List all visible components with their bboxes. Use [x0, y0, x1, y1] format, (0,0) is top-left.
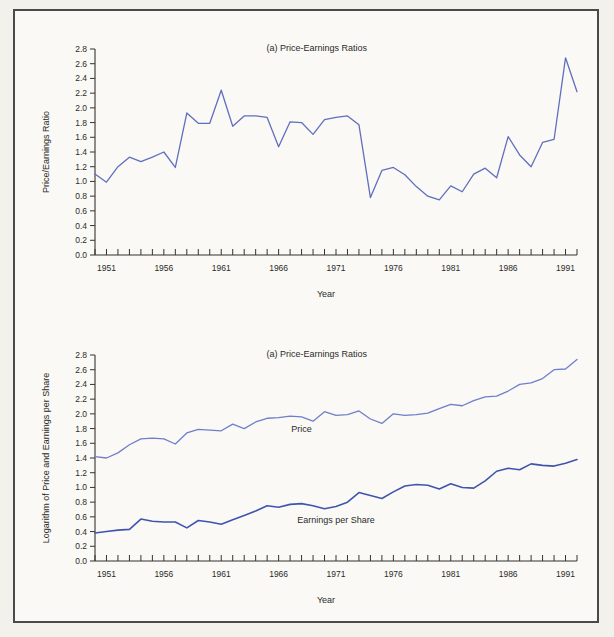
y-axis-tick-label: 1.6: [75, 438, 87, 448]
series-inline-label: Price: [291, 424, 312, 434]
y-axis-tick-label: 0.4: [75, 527, 87, 537]
y-axis-tick-label: 1.0: [75, 176, 87, 186]
x-axis-tick-label: 1986: [499, 569, 518, 579]
series-line: [95, 58, 577, 200]
y-axis-tick-label: 0.8: [75, 191, 87, 201]
y-axis-tick-label: 2.2: [75, 394, 87, 404]
x-axis-tick-label: 1951: [97, 263, 116, 273]
y-axis-tick-label: 0.0: [75, 250, 87, 260]
chart-b-canvas: 0.00.20.40.60.81.01.21.41.61.82.02.22.42…: [31, 329, 599, 619]
y-axis-tick-label: 1.8: [75, 424, 87, 434]
x-axis-tick-label: 1986: [499, 263, 518, 273]
y-axis-tick-label: 2.6: [75, 365, 87, 375]
x-axis-tick-label: 1976: [384, 263, 403, 273]
y-axis-tick-label: 1.6: [75, 132, 87, 142]
y-axis-tick-label: 1.4: [75, 453, 87, 463]
series-line: [95, 359, 577, 458]
y-axis-tick-label: 2.4: [75, 379, 87, 389]
page-border-frame: 0.00.20.40.60.81.01.21.41.61.82.02.22.42…: [13, 9, 599, 623]
chart-panel-log-price-and-earnings: 0.00.20.40.60.81.01.21.41.61.82.02.22.42…: [31, 329, 599, 619]
x-axis-tick-label: 1971: [327, 263, 346, 273]
chart-title: (a) Price-Earnings Ratios: [266, 43, 367, 53]
y-axis-tick-label: 2.0: [75, 103, 87, 113]
y-axis-tick-label: 2.0: [75, 409, 87, 419]
x-axis-tick-label: 1976: [384, 569, 403, 579]
y-axis-tick-label: 0.2: [75, 235, 87, 245]
x-axis-tick-label: 1981: [441, 263, 460, 273]
y-axis-tick-label: 1.4: [75, 147, 87, 157]
y-axis-tick-label: 2.6: [75, 59, 87, 69]
y-axis-tick-label: 0.4: [75, 221, 87, 231]
y-axis-tick-label: 1.2: [75, 468, 87, 478]
y-axis-tick-label: 1.2: [75, 162, 87, 172]
series-inline-label: Earnings per Share: [297, 515, 375, 525]
x-axis-tick-label: 1966: [269, 263, 288, 273]
y-axis-tick-label: 0.0: [75, 556, 87, 566]
x-axis-title: Year: [317, 289, 335, 299]
x-axis-tick-label: 1956: [154, 569, 173, 579]
y-axis-tick-label: 2.8: [75, 44, 87, 54]
x-axis-title: Year: [317, 595, 335, 605]
x-axis-tick-label: 1971: [327, 569, 346, 579]
page-root: 0.00.20.40.60.81.01.21.41.61.82.02.22.42…: [0, 0, 614, 637]
x-axis-tick-label: 1951: [97, 569, 116, 579]
y-axis-tick-label: 1.8: [75, 118, 87, 128]
y-axis-tick-label: 2.8: [75, 350, 87, 360]
y-axis-tick-label: 0.8: [75, 497, 87, 507]
x-axis-tick-label: 1961: [212, 569, 231, 579]
y-axis-tick-label: 0.6: [75, 206, 87, 216]
x-axis-tick-label: 1956: [154, 263, 173, 273]
x-axis-tick-label: 1991: [556, 569, 575, 579]
y-axis-title: Logarithm of Price and Earnings per Shar…: [41, 373, 51, 544]
x-axis-tick-label: 1961: [212, 263, 231, 273]
chart-title: (a) Price-Earnings Ratios: [266, 349, 367, 359]
y-axis-title: Price/Earnings Ratio: [41, 111, 51, 193]
x-axis-tick-label: 1981: [441, 569, 460, 579]
x-axis-tick-label: 1966: [269, 569, 288, 579]
y-axis-tick-label: 2.4: [75, 73, 87, 83]
chart-a-canvas: 0.00.20.40.60.81.01.21.41.61.82.02.22.42…: [31, 23, 599, 313]
y-axis-tick-label: 1.0: [75, 482, 87, 492]
x-axis-tick-label: 1991: [556, 263, 575, 273]
y-axis-tick-label: 2.2: [75, 88, 87, 98]
y-axis-tick-label: 0.2: [75, 541, 87, 551]
chart-panel-price-earnings-ratios: 0.00.20.40.60.81.01.21.41.61.82.02.22.42…: [31, 23, 599, 313]
y-axis-tick-label: 0.6: [75, 512, 87, 522]
